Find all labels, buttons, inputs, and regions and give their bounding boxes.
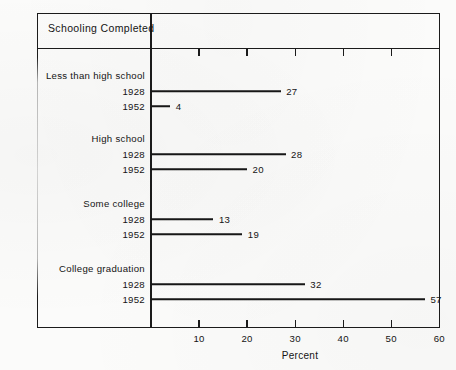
bar-value-label: 4 — [176, 101, 182, 112]
axis-tick-bottom — [198, 320, 199, 328]
axis-tick-top — [246, 48, 247, 56]
bar — [151, 283, 305, 285]
axis-tick-bottom — [295, 320, 296, 328]
axis-tick-label: 20 — [241, 333, 252, 344]
plot-area: Less than high school19282719524High sch… — [0, 0, 456, 370]
bar-value-label: 32 — [310, 279, 321, 290]
bar-value-label: 13 — [219, 214, 230, 225]
bar-year-label: 1928 — [0, 86, 145, 97]
axis-tick-label: 30 — [290, 333, 301, 344]
bar-year-label: 1952 — [0, 164, 145, 175]
axis-tick-bottom — [391, 320, 392, 328]
axis-tick-top — [343, 48, 344, 56]
bar-year-label: 1952 — [0, 229, 145, 240]
axis-tick-top — [391, 48, 392, 56]
bar — [151, 153, 286, 155]
bar — [151, 168, 247, 170]
bar-value-label: 19 — [248, 229, 259, 240]
axis-tick-bottom — [343, 320, 344, 328]
bar-value-label: 27 — [286, 86, 297, 97]
x-axis-title: Percent — [282, 350, 319, 361]
axis-tick-label: 50 — [386, 333, 397, 344]
bar-value-label: 28 — [291, 149, 302, 160]
bar-year-label: 1952 — [0, 294, 145, 305]
bar-year-label: 1928 — [0, 149, 145, 160]
chart-page: Schooling Completed Less than high schoo… — [0, 0, 456, 370]
axis-tick-label: 60 — [434, 333, 445, 344]
bar-value-label: 57 — [430, 294, 441, 305]
bar-value-label: 20 — [253, 164, 264, 175]
axis-tick-top — [198, 48, 199, 56]
bar — [151, 233, 242, 235]
category-label: College graduation — [0, 263, 145, 274]
category-label: Less than high school — [0, 70, 145, 81]
bar-year-label: 1928 — [0, 279, 145, 290]
bar — [151, 298, 425, 300]
category-label: Some college — [0, 198, 145, 209]
axis-tick-label: 10 — [193, 333, 204, 344]
axis-tick-top — [295, 48, 296, 56]
bar-year-label: 1952 — [0, 101, 145, 112]
bar — [151, 90, 281, 92]
axis-tick-bottom — [246, 320, 247, 328]
bar-year-label: 1928 — [0, 214, 145, 225]
bar — [151, 105, 170, 107]
axis-tick-label: 40 — [338, 333, 349, 344]
category-label: High school — [0, 133, 145, 144]
bar — [151, 218, 213, 220]
